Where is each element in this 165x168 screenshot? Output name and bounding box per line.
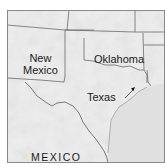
- label-new-mexico-line2: Mexico: [23, 64, 58, 76]
- label-mexico: MEXICO: [31, 152, 81, 163]
- map-frame: New Mexico Oklahoma Texas MEXICO: [7, 10, 165, 163]
- label-texas: Texas: [87, 92, 116, 103]
- label-new-mexico-line1: New: [23, 52, 58, 64]
- label-oklahoma: Oklahoma: [94, 54, 144, 65]
- label-new-mexico: New Mexico: [23, 52, 58, 76]
- map-graphic: [7, 10, 165, 163]
